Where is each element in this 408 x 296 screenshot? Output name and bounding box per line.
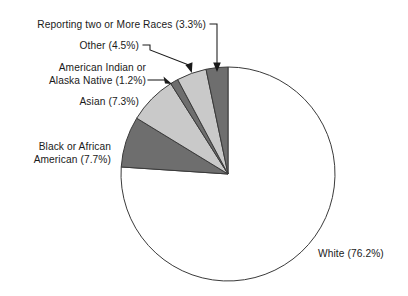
pie-chart-figure: Reporting two or More Races (3.3%) Other… [0,0,408,296]
label-white: White (76.2%) [318,248,384,259]
pie-slices [121,67,335,281]
label-black-or-african-american-line1: Black or African [39,141,111,152]
label-reporting-two-or-more-races: Reporting two or More Races (3.3%) [37,19,206,30]
label-other: Other (4.5%) [79,40,139,51]
label-black-or-african-american-line2: American (7.7%) [34,154,111,165]
label-asian: Asian (7.3%) [79,96,139,107]
label-american-indian-line1: American Indian or [59,62,147,73]
pie-chart-svg: Reporting two or More Races (3.3%) Other… [0,0,408,296]
label-american-indian-line2: Alaska Native (1.2%) [49,75,146,86]
